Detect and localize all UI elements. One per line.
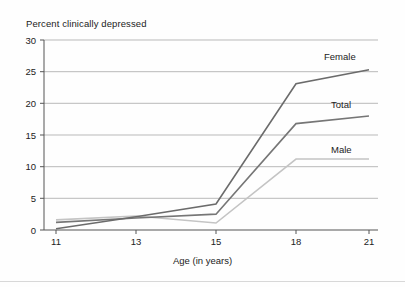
y-tick-label-30: 30 bbox=[25, 35, 36, 46]
y-tick-label-10: 10 bbox=[25, 161, 36, 172]
series-line-total bbox=[56, 116, 369, 222]
series-line-female bbox=[56, 70, 369, 229]
y-tick-label-15: 15 bbox=[25, 130, 36, 141]
series-label-male: Male bbox=[331, 144, 352, 155]
y-tick-label-20: 20 bbox=[25, 98, 36, 109]
line-chart-plot: 30 25 20 15 10 5 0 11 13 15 18 21 Female… bbox=[0, 0, 405, 287]
x-axis-title: Age (in years) bbox=[0, 255, 405, 266]
gridlines bbox=[44, 40, 378, 198]
x-tick-marks bbox=[56, 230, 369, 234]
x-tick-label-13: 13 bbox=[131, 236, 142, 247]
y-tick-label-0: 0 bbox=[31, 225, 36, 236]
x-tick-label-15: 15 bbox=[211, 236, 222, 247]
series-label-female: Female bbox=[324, 51, 356, 62]
y-tick-marks bbox=[40, 40, 44, 230]
x-tick-label-11: 11 bbox=[51, 236, 61, 247]
y-tick-label-5: 5 bbox=[31, 193, 36, 204]
series-label-total: Total bbox=[331, 99, 351, 110]
bottom-divider bbox=[0, 281, 405, 282]
series-line-male bbox=[56, 159, 369, 223]
chart-figure: Percent clinically depressed bbox=[0, 0, 405, 287]
x-tick-label-21: 21 bbox=[364, 236, 375, 247]
y-tick-label-25: 25 bbox=[25, 66, 36, 77]
x-tick-label-18: 18 bbox=[291, 236, 302, 247]
